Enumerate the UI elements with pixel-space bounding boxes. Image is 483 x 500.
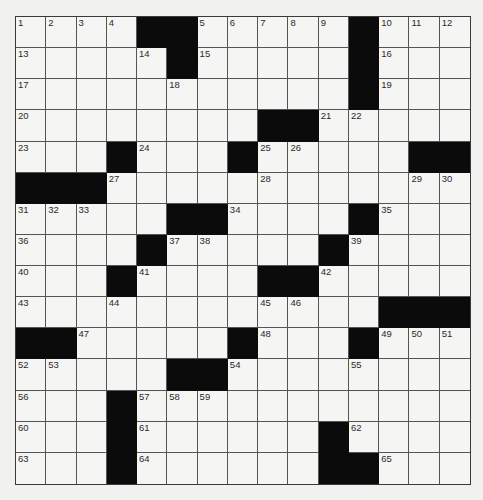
answer-cell[interactable] xyxy=(319,297,349,328)
answer-cell[interactable] xyxy=(440,79,470,110)
answer-cell[interactable]: 25 xyxy=(258,142,288,173)
answer-cell[interactable]: 26 xyxy=(288,142,318,173)
answer-cell[interactable] xyxy=(258,48,288,79)
answer-cell[interactable] xyxy=(77,110,107,141)
answer-cell[interactable] xyxy=(258,79,288,110)
answer-cell[interactable] xyxy=(167,142,197,173)
answer-cell[interactable]: 30 xyxy=(440,173,470,204)
answer-cell[interactable] xyxy=(77,297,107,328)
answer-cell[interactable]: 42 xyxy=(319,266,349,297)
answer-cell[interactable]: 3 xyxy=(77,17,107,48)
answer-cell[interactable]: 24 xyxy=(137,142,167,173)
answer-cell[interactable]: 36 xyxy=(16,235,46,266)
answer-cell[interactable]: 48 xyxy=(258,328,288,359)
answer-cell[interactable] xyxy=(258,422,288,453)
answer-cell[interactable] xyxy=(107,79,137,110)
answer-cell[interactable] xyxy=(409,453,439,484)
answer-cell[interactable] xyxy=(288,79,318,110)
answer-cell[interactable] xyxy=(319,173,349,204)
answer-cell[interactable]: 40 xyxy=(16,266,46,297)
answer-cell[interactable] xyxy=(228,48,258,79)
answer-cell[interactable]: 64 xyxy=(137,453,167,484)
answer-cell[interactable]: 16 xyxy=(379,48,409,79)
answer-cell[interactable] xyxy=(46,297,76,328)
answer-cell[interactable]: 54 xyxy=(228,359,258,390)
answer-cell[interactable]: 22 xyxy=(349,110,379,141)
answer-cell[interactable]: 23 xyxy=(16,142,46,173)
answer-cell[interactable] xyxy=(319,142,349,173)
answer-cell[interactable] xyxy=(319,79,349,110)
answer-cell[interactable]: 58 xyxy=(167,391,197,422)
answer-cell[interactable] xyxy=(167,173,197,204)
answer-cell[interactable]: 28 xyxy=(258,173,288,204)
answer-cell[interactable] xyxy=(46,235,76,266)
answer-cell[interactable]: 44 xyxy=(107,297,137,328)
answer-cell[interactable]: 32 xyxy=(46,204,76,235)
answer-cell[interactable] xyxy=(198,453,228,484)
answer-cell[interactable]: 52 xyxy=(16,359,46,390)
answer-cell[interactable] xyxy=(379,173,409,204)
answer-cell[interactable] xyxy=(319,328,349,359)
answer-cell[interactable] xyxy=(228,422,258,453)
answer-cell[interactable] xyxy=(107,359,137,390)
answer-cell[interactable] xyxy=(288,328,318,359)
answer-cell[interactable] xyxy=(107,235,137,266)
answer-cell[interactable]: 57 xyxy=(137,391,167,422)
answer-cell[interactable] xyxy=(137,297,167,328)
answer-cell[interactable] xyxy=(440,266,470,297)
answer-cell[interactable] xyxy=(379,391,409,422)
answer-cell[interactable] xyxy=(77,422,107,453)
answer-cell[interactable] xyxy=(288,204,318,235)
answer-cell[interactable]: 20 xyxy=(16,110,46,141)
answer-cell[interactable]: 53 xyxy=(46,359,76,390)
answer-cell[interactable] xyxy=(379,422,409,453)
answer-cell[interactable] xyxy=(46,422,76,453)
answer-cell[interactable] xyxy=(198,328,228,359)
answer-cell[interactable]: 10 xyxy=(379,17,409,48)
answer-cell[interactable] xyxy=(46,266,76,297)
answer-cell[interactable] xyxy=(409,359,439,390)
answer-cell[interactable]: 5 xyxy=(198,17,228,48)
answer-cell[interactable] xyxy=(228,110,258,141)
answer-cell[interactable]: 55 xyxy=(349,359,379,390)
answer-cell[interactable] xyxy=(409,204,439,235)
answer-cell[interactable] xyxy=(319,391,349,422)
answer-cell[interactable] xyxy=(46,79,76,110)
answer-cell[interactable] xyxy=(409,79,439,110)
answer-cell[interactable] xyxy=(228,391,258,422)
answer-cell[interactable] xyxy=(77,266,107,297)
answer-cell[interactable]: 19 xyxy=(379,79,409,110)
answer-cell[interactable] xyxy=(107,204,137,235)
answer-cell[interactable] xyxy=(258,391,288,422)
answer-cell[interactable]: 62 xyxy=(349,422,379,453)
answer-cell[interactable]: 8 xyxy=(288,17,318,48)
answer-cell[interactable] xyxy=(349,391,379,422)
answer-cell[interactable]: 38 xyxy=(198,235,228,266)
answer-cell[interactable] xyxy=(440,453,470,484)
answer-cell[interactable]: 6 xyxy=(228,17,258,48)
answer-cell[interactable] xyxy=(228,453,258,484)
answer-cell[interactable] xyxy=(288,359,318,390)
answer-cell[interactable]: 51 xyxy=(440,328,470,359)
answer-cell[interactable] xyxy=(379,266,409,297)
answer-cell[interactable] xyxy=(440,235,470,266)
answer-cell[interactable] xyxy=(258,453,288,484)
answer-cell[interactable]: 59 xyxy=(198,391,228,422)
answer-cell[interactable]: 33 xyxy=(77,204,107,235)
answer-cell[interactable] xyxy=(440,422,470,453)
answer-cell[interactable] xyxy=(409,48,439,79)
answer-cell[interactable] xyxy=(440,359,470,390)
answer-cell[interactable] xyxy=(228,266,258,297)
answer-cell[interactable]: 21 xyxy=(319,110,349,141)
answer-cell[interactable]: 46 xyxy=(288,297,318,328)
answer-cell[interactable] xyxy=(379,359,409,390)
answer-cell[interactable] xyxy=(349,297,379,328)
answer-cell[interactable]: 65 xyxy=(379,453,409,484)
answer-cell[interactable] xyxy=(258,235,288,266)
answer-cell[interactable]: 45 xyxy=(258,297,288,328)
answer-cell[interactable] xyxy=(409,110,439,141)
answer-cell[interactable]: 34 xyxy=(228,204,258,235)
answer-cell[interactable] xyxy=(137,79,167,110)
answer-cell[interactable] xyxy=(137,173,167,204)
answer-cell[interactable] xyxy=(198,173,228,204)
